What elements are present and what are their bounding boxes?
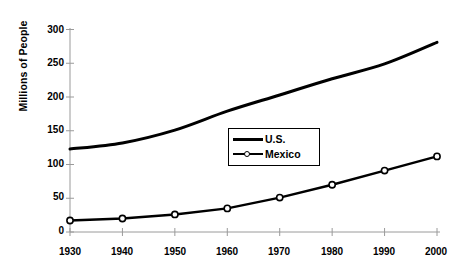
legend-label-us: U.S. [265, 134, 285, 145]
legend-line-marker-swatch-mexico [233, 149, 263, 160]
data-point-marker [277, 194, 283, 200]
data-point-marker [224, 205, 230, 211]
data-point-marker [172, 211, 178, 217]
series-line-mexico [70, 156, 437, 220]
legend-line-swatch-us [233, 134, 263, 145]
legend-item-us: U.S. [233, 132, 314, 147]
data-point-marker [67, 217, 73, 223]
chart-legend: U.S. Mexico [228, 128, 320, 166]
data-point-marker [329, 182, 335, 188]
data-point-marker [434, 153, 440, 159]
data-point-marker [119, 215, 125, 221]
population-line-chart: Millions of People 300 250 200 150 100 5… [0, 0, 460, 272]
legend-label-mexico: Mexico [265, 149, 301, 160]
legend-item-mexico: Mexico [233, 147, 314, 162]
data-point-marker [381, 167, 387, 173]
